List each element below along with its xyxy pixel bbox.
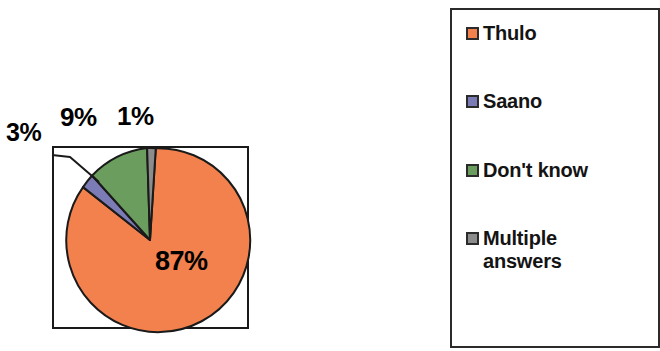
- legend-item-dont-know[interactable]: Don't know: [466, 159, 651, 181]
- legend-item-thulo[interactable]: Thulo: [466, 22, 651, 44]
- pie-chart-region: 3% 9% 1% 87%: [0, 0, 430, 351]
- legend-swatch-icon-multiple-answers: [466, 232, 479, 245]
- legend-swatch-icon-dont-know: [466, 164, 479, 177]
- data-label-9-percent: 9%: [60, 104, 97, 130]
- data-label-87-percent: 87%: [155, 248, 208, 275]
- legend-swatch-icon-thulo: [466, 27, 479, 40]
- legend-label-thulo: Thulo: [483, 22, 536, 44]
- legend-swatch-icon-saano: [466, 95, 479, 108]
- pie-chart-graphic: [0, 0, 430, 351]
- legend-item-saano[interactable]: Saano: [466, 90, 651, 112]
- legend-label-dont-know: Don't know: [483, 159, 588, 181]
- legend-label-multiple-answers: Multiple answers: [483, 227, 562, 272]
- data-label-1-percent: 1%: [117, 103, 154, 129]
- legend-item-multiple-answers[interactable]: Multiple answers: [466, 227, 651, 272]
- legend-label-saano: Saano: [483, 90, 542, 112]
- legend: Thulo Saano Don't know Multiple answers: [466, 8, 651, 348]
- data-label-3-percent: 3%: [6, 120, 41, 145]
